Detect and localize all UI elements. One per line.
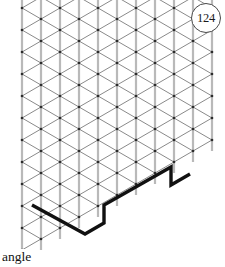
grid-dot [78, 40, 81, 43]
grid-dot [78, 216, 81, 219]
grid-dot [59, 95, 62, 98]
grid-dot [40, 128, 43, 131]
grid-dot [78, 150, 81, 153]
grid-line-diagonal-down [22, 52, 193, 151]
grid-dot [173, 51, 176, 54]
grid-dot [21, 29, 24, 32]
grid-dot [154, 106, 157, 109]
grid-dot [59, 29, 62, 32]
grid-dot [21, 161, 24, 164]
grid-dot [135, 29, 138, 32]
grid-dot [59, 139, 62, 142]
grid-dot [116, 150, 119, 153]
grid-dot [78, 18, 81, 21]
grid-dot [21, 117, 24, 120]
grid-dot [154, 62, 157, 65]
grid-dot [135, 117, 138, 120]
grid-dot [192, 106, 195, 109]
grid-dot [116, 62, 119, 65]
grid-dot [135, 73, 138, 76]
grid-dot [116, 84, 119, 87]
grid-dot [59, 51, 62, 54]
grid-dot [211, 73, 214, 76]
grid-dot [40, 106, 43, 109]
grid-dot [97, 117, 100, 120]
grid-dot [40, 150, 43, 153]
grid-dot [192, 40, 195, 43]
grid-dot [135, 161, 138, 164]
grid-dot [135, 139, 138, 142]
figure-canvas: 124 angle [0, 0, 225, 267]
grid-dot [40, 238, 43, 241]
grid-dot [116, 172, 119, 175]
grid-dot [59, 183, 62, 186]
grid-dot [211, 95, 214, 98]
grid-dot [154, 18, 157, 21]
grid-dot [173, 161, 176, 164]
grid-dot [211, 117, 214, 120]
grid-dot [40, 18, 43, 21]
grid-dot [21, 205, 24, 208]
figure-number-label: 124 [197, 12, 215, 25]
grid-dot [78, 84, 81, 87]
grid-dot [21, 73, 24, 76]
grid-dot [59, 7, 62, 10]
grid-dot [40, 194, 43, 197]
grid-dot [78, 172, 81, 175]
grid-dot [97, 183, 100, 186]
grid-dot [97, 73, 100, 76]
grid-dot [173, 73, 176, 76]
grid-dot [211, 139, 214, 142]
grid-dot [135, 7, 138, 10]
grid-dot [78, 128, 81, 131]
grid-dot [59, 117, 62, 120]
grid-dot [97, 51, 100, 54]
grid-dot [192, 84, 195, 87]
grid-dot [21, 7, 24, 10]
grid-dot [59, 161, 62, 164]
grid-dot [40, 216, 43, 219]
grid-dot [97, 7, 100, 10]
grid-dot [211, 51, 214, 54]
grid-dot [40, 40, 43, 43]
grid-dot [116, 128, 119, 131]
grid-dot [78, 106, 81, 109]
grid-dot [97, 205, 100, 208]
grid-dot [116, 18, 119, 21]
grid-dot [192, 128, 195, 131]
grid-dot [192, 62, 195, 65]
grid-dot [173, 7, 176, 10]
grid-dot [40, 84, 43, 87]
grid-dot [59, 205, 62, 208]
grid-dot [154, 40, 157, 43]
grid-dot [21, 51, 24, 54]
figure-number-badge: 124 [191, 3, 221, 33]
grid-dot [192, 150, 195, 153]
grid-line-diagonal-down [22, 140, 117, 195]
grid-dot [173, 95, 176, 98]
grid-dot [97, 29, 100, 32]
grid-line-diagonal-down [22, 228, 41, 239]
isometric-grid [0, 0, 225, 267]
grid-dot [135, 95, 138, 98]
grid-dot [21, 95, 24, 98]
grid-dot [21, 227, 24, 230]
grid-dot [173, 139, 176, 142]
grid-dot [78, 62, 81, 65]
grid-dot [59, 73, 62, 76]
grid-dot [59, 227, 62, 230]
caption-text: angle [2, 249, 33, 265]
grid-dot [40, 62, 43, 65]
grid-dot [78, 194, 81, 197]
grid-dot [97, 139, 100, 142]
grid-dot [173, 29, 176, 32]
grid-dot [21, 183, 24, 186]
grid-dot [116, 40, 119, 43]
grid-dot [154, 150, 157, 153]
grid-dot [116, 106, 119, 109]
grid-dot [154, 128, 157, 131]
grid-dot [21, 139, 24, 142]
grid-dot [97, 95, 100, 98]
grid-dot [135, 51, 138, 54]
grid-dot [154, 84, 157, 87]
